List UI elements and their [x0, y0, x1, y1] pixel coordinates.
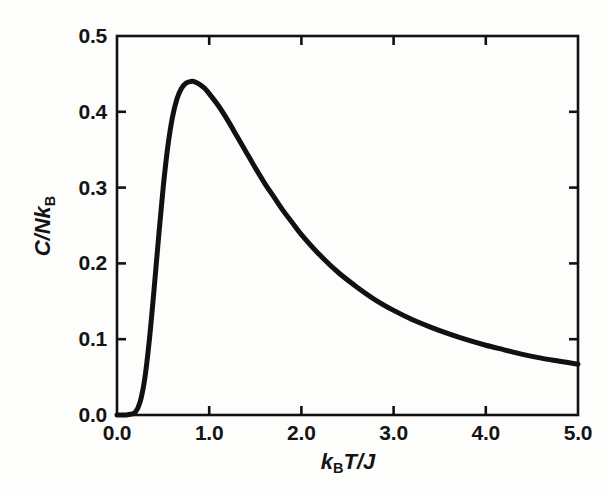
x-tick-label: 1.0: [195, 421, 224, 445]
y-slash: /: [30, 234, 55, 240]
y-subscript-B: B: [42, 196, 58, 206]
x-axis-title: kBT/J: [321, 449, 376, 476]
axes-frame: [117, 36, 578, 415]
axis-ticks: [117, 36, 578, 415]
x-symbol-J: J: [363, 449, 375, 474]
y-tick-label: 0.1: [59, 327, 107, 351]
y-symbol-k: k: [30, 206, 55, 218]
y-symbol-N: N: [30, 218, 55, 234]
y-tick-label: 0.3: [59, 176, 107, 200]
y-symbol-C: C: [30, 240, 55, 256]
y-tick-label: 0.5: [59, 24, 107, 48]
figure-canvas: 0.01.02.03.04.05.0 0.00.10.20.30.40.5 kB…: [0, 0, 608, 494]
y-tick-label: 0.2: [59, 251, 107, 275]
x-symbol-T: T: [343, 449, 356, 474]
y-axis-title: C/NkB: [30, 196, 57, 257]
x-tick-label: 3.0: [379, 421, 408, 445]
x-tick-label: 4.0: [472, 421, 501, 445]
heat-capacity-curve: [117, 81, 578, 415]
x-tick-label: 5.0: [564, 421, 593, 445]
y-tick-label: 0.4: [59, 100, 107, 124]
y-tick-label: 0.0: [59, 403, 107, 427]
x-symbol-k: k: [321, 449, 333, 474]
x-subscript-B: B: [333, 460, 343, 476]
x-tick-label: 2.0: [287, 421, 316, 445]
